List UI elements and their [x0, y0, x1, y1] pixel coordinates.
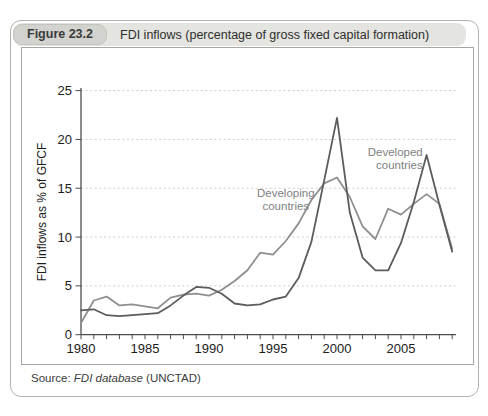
chart-panel: 0510152025198019851990199520002005FDI in…: [21, 47, 474, 365]
fdi-line-chart: 0510152025198019851990199520002005FDI in…: [22, 48, 473, 364]
figure-title: FDI inflows (percentage of gross fixed c…: [120, 28, 429, 42]
annotation-text-line1: Developed: [368, 146, 423, 158]
source-prefix: Source:: [31, 372, 74, 384]
x-tick-label-1980: 1980: [67, 341, 96, 356]
y-axis-title: FDI inflows as % of GFCF: [35, 143, 49, 282]
y-tick-label-20: 20: [58, 132, 72, 147]
x-tick-label-1990: 1990: [195, 341, 224, 356]
y-tick-label-15: 15: [58, 181, 72, 196]
source-note: Source: FDI database (UNCTAD): [31, 372, 201, 384]
y-tick-label-25: 25: [58, 83, 72, 98]
x-axis-ticks: 198019851990199520002005: [67, 335, 453, 356]
y-axis-ticks: 0510152025: [58, 83, 81, 342]
x-tick-label-2000: 2000: [323, 341, 352, 356]
figure-header-bar: Figure 23.2 FDI inflows (percentage of g…: [13, 23, 466, 46]
figure-number-badge: Figure 23.2: [13, 24, 107, 45]
source-suffix: (UNCTAD): [143, 372, 201, 384]
figure-container: Figure 23.2 FDI inflows (percentage of g…: [10, 20, 479, 397]
x-tick-label-1995: 1995: [259, 341, 288, 356]
annotation-text-line2: countries: [262, 200, 309, 212]
annotation-text-line1: Developing: [257, 187, 315, 199]
y-tick-label-10: 10: [58, 230, 72, 245]
x-tick-label-1985: 1985: [131, 341, 160, 356]
x-tick-label-2005: 2005: [387, 341, 416, 356]
annotation-developed-countries: Developedcountries: [368, 146, 423, 171]
annotation-developing-countries: Developingcountries: [257, 187, 315, 212]
y-tick-label-5: 5: [65, 278, 72, 293]
annotation-text-line2: countries: [376, 159, 423, 171]
source-database-name: FDI database: [74, 372, 143, 384]
